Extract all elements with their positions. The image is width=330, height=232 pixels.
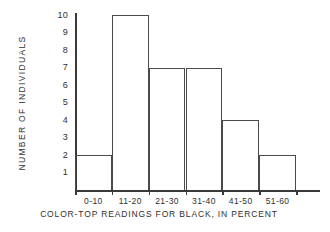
bar-series xyxy=(75,15,296,190)
y-axis-tick-label: 10 xyxy=(52,11,68,20)
x-axis-tick-label: 51-60 xyxy=(259,195,296,207)
x-axis-tick-label: 11-20 xyxy=(112,195,149,207)
y-axis-title: NUMBER OF INDIVIDUALS xyxy=(17,18,27,188)
x-axis-caption: COLOR-TOP READINGS FOR BLACK, IN PERCENT xyxy=(0,209,318,219)
bar xyxy=(186,68,223,191)
y-axis-tick-label: 6 xyxy=(52,81,68,90)
bar xyxy=(222,120,259,190)
bar xyxy=(259,155,296,190)
y-axis-tick-label: 7 xyxy=(52,63,68,72)
y-axis-tick-label: 3 xyxy=(52,133,68,142)
bar xyxy=(149,68,186,191)
x-axis-tick-label: 0-10 xyxy=(75,195,112,207)
y-axis-tick-label: 4 xyxy=(52,116,68,125)
y-axis-tick-label: 5 xyxy=(52,98,68,107)
y-axis-tick-label: 2 xyxy=(52,151,68,160)
x-axis-tick-labels: 0-1011-2021-3031-4041-5051-60 xyxy=(75,195,296,209)
bar xyxy=(75,155,112,190)
y-axis-tick-label: 9 xyxy=(52,28,68,37)
y-axis-tick-labels: 10987654321 xyxy=(30,0,68,232)
y-axis-tick-label: 8 xyxy=(52,46,68,55)
histogram-figure: NUMBER OF INDIVIDUALS 10987654321 0-1011… xyxy=(0,0,330,232)
x-axis-tick-label: 41-50 xyxy=(222,195,259,207)
y-axis-tick-label: 1 xyxy=(52,168,68,177)
x-axis-tick-label: 31-40 xyxy=(186,195,223,207)
x-axis-tick xyxy=(296,190,298,195)
bar xyxy=(112,15,149,190)
x-axis-tick-label: 21-30 xyxy=(149,195,186,207)
